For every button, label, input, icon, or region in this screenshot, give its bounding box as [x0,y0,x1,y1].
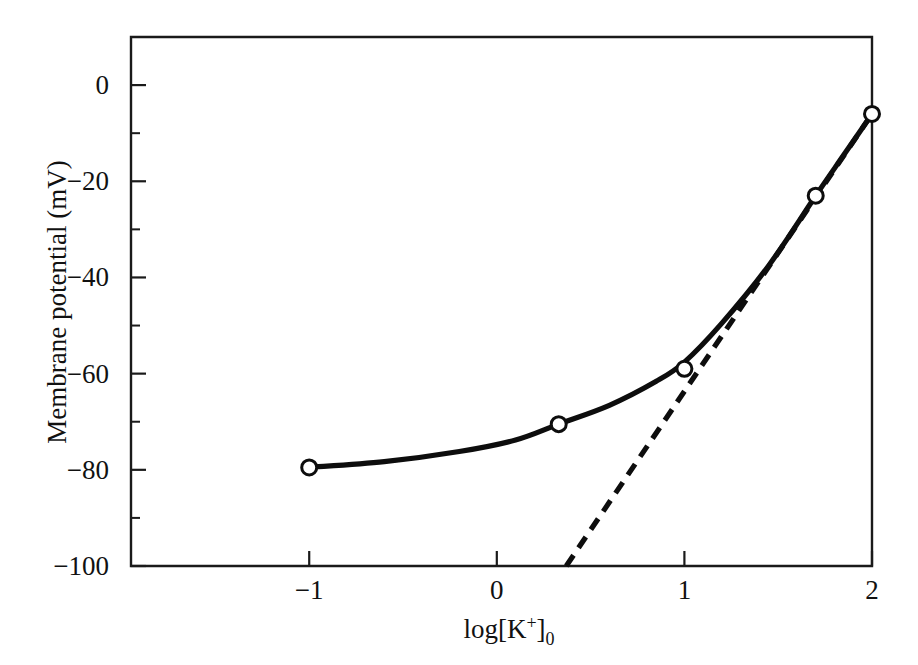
y-tick-label: −100 [53,551,109,581]
tick-marks [131,85,872,566]
y-tick-label: 0 [96,70,110,100]
chart-canvas: −1012 0−20−40−60−80−100 log[K+]0 Membran… [0,0,918,665]
x-tick-label: 1 [678,575,692,605]
membrane-potential-curve [309,114,872,467]
x-axis-tick-labels: −1012 [295,575,879,605]
membrane-potential-chart: −1012 0−20−40−60−80−100 log[K+]0 Membran… [0,0,918,665]
data-series [309,114,872,566]
data-point-marker [865,106,880,121]
y-tick-label: −20 [67,166,109,196]
y-tick-label: −80 [67,455,109,485]
y-tick-label: −60 [67,359,109,389]
y-axis-title: Membrane potential (mV) [42,160,72,443]
data-point-marker [551,417,566,432]
data-point-markers [302,106,880,474]
x-tick-label: −1 [295,575,324,605]
x-tick-label: 0 [490,575,504,605]
x-axis-title: log[K+]0 [463,613,554,649]
y-tick-label: −40 [67,262,109,292]
data-point-marker [302,460,317,475]
data-point-marker [677,361,692,376]
nernst-dashed-line [566,114,872,566]
data-point-marker [808,188,823,203]
axes [131,37,872,566]
plot-frame [131,37,872,566]
x-tick-label: 2 [865,575,879,605]
